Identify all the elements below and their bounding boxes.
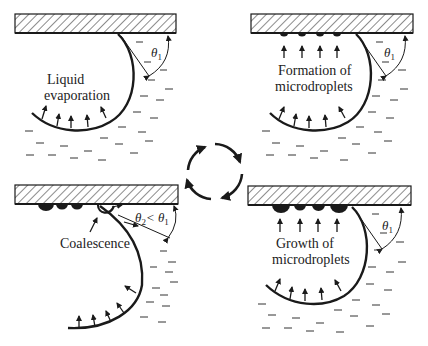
condensation-arrows	[284, 46, 337, 58]
svg-text:θ1: θ1	[151, 45, 162, 62]
svg-text:θ1: θ1	[382, 218, 393, 235]
panel-growth-of-microdroplets: θ1 Growth of microdroplets	[248, 186, 411, 332]
svg-text:θ2< θ1: θ2< θ1	[135, 210, 169, 227]
cycle-arrows	[187, 144, 242, 199]
wall-surface	[248, 186, 411, 205]
liquid-dashes	[140, 251, 178, 322]
svg-text:θ1: θ1	[384, 45, 395, 62]
wall-surface	[251, 14, 413, 33]
coalescence-pointer	[90, 218, 97, 232]
panel-coalescence: θ2< θ1 Coalescence	[15, 185, 178, 328]
panel-formation-of-microdroplets: θ1 Formation of microdroplets	[251, 14, 413, 160]
microdroplets	[272, 205, 348, 213]
condensation-cycle-diagram: θ1 Liquid evaporation	[0, 0, 428, 346]
wall-surface	[15, 185, 178, 204]
microdroplets	[38, 204, 83, 211]
panel-liquid-evaporation: θ1 Liquid evaporation	[15, 14, 176, 160]
label-formation-of-microdroplets: Formation of microdroplets	[275, 63, 355, 94]
label-liquid-evaporation: Liquid evaporation	[44, 72, 110, 103]
wall-surface	[15, 14, 176, 33]
label-coalescence: Coalescence	[60, 236, 130, 251]
condensation-arrows	[280, 219, 337, 232]
label-growth-of-microdroplets: Growth of microdroplets	[272, 236, 350, 267]
